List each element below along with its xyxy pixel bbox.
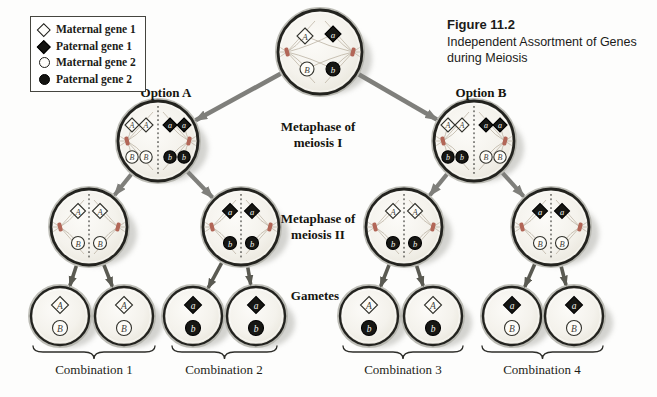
arrow-m1b-to-m2_4 bbox=[503, 173, 524, 196]
svg-text:b: b bbox=[460, 153, 464, 162]
maternal-gene-2-icon bbox=[39, 57, 50, 68]
legend-label: Paternal gene 1 bbox=[56, 39, 132, 55]
gene-b-circle: b bbox=[456, 151, 468, 163]
legend-label: Maternal gene 1 bbox=[56, 22, 136, 38]
svg-text:A: A bbox=[143, 121, 149, 130]
brace-combination-2 bbox=[172, 346, 277, 359]
svg-text:a: a bbox=[484, 121, 488, 130]
combination-2-label: Combination 2 bbox=[185, 362, 263, 378]
svg-text:A: A bbox=[365, 301, 372, 311]
metaphase2-cell-4: aaBB bbox=[511, 187, 599, 267]
combination-3-label: Combination 3 bbox=[364, 362, 442, 378]
svg-text:B: B bbox=[130, 153, 135, 162]
gene-B-circle: B bbox=[94, 237, 107, 250]
legend-item-paternal-gene-1: Paternal gene 1 bbox=[37, 39, 136, 55]
combination-4-label: Combination 4 bbox=[503, 362, 581, 378]
svg-text:a: a bbox=[498, 121, 502, 130]
legend-label: Maternal gene 2 bbox=[56, 55, 136, 71]
arrow-m2_2-to-g3 bbox=[208, 263, 221, 288]
brace-combination-3 bbox=[343, 346, 463, 359]
svg-text:a: a bbox=[250, 207, 254, 217]
legend-box: Maternal gene 1 Paternal gene 1 Maternal… bbox=[30, 16, 146, 92]
gamete-6: Ab bbox=[402, 285, 472, 348]
svg-text:a: a bbox=[331, 30, 336, 40]
gene-B-circle: B bbox=[140, 151, 152, 163]
svg-text:a: a bbox=[572, 301, 577, 311]
arrow-parent-to-m1b bbox=[359, 75, 437, 120]
figure-title: Independent Assortment of Genes during M… bbox=[447, 34, 647, 66]
svg-text:B: B bbox=[571, 324, 577, 334]
gene-b-circle: b bbox=[164, 151, 176, 163]
combination-1-label: Combination 1 bbox=[55, 362, 133, 378]
svg-text:B: B bbox=[57, 324, 63, 334]
metaphase-meiosis-2-label: Metaphase of meiosis II bbox=[281, 211, 356, 244]
svg-text:A: A bbox=[445, 121, 451, 130]
arrow-m2_1-to-g1 bbox=[70, 266, 76, 286]
svg-text:a: a bbox=[191, 301, 196, 311]
gametes-label: Gametes bbox=[291, 288, 339, 304]
gene-B-circle: B bbox=[567, 321, 582, 336]
meiosis-diagram: AaBbAAaaBBbbAAaabbBBAABBaabbAAbbaaBBABAB… bbox=[0, 0, 657, 397]
svg-text:b: b bbox=[254, 324, 259, 334]
svg-text:B: B bbox=[121, 324, 127, 334]
parent-cell: AaBb bbox=[276, 8, 372, 96]
svg-text:b: b bbox=[182, 153, 186, 162]
svg-text:b: b bbox=[446, 153, 450, 162]
arrow-m2_4-to-g8 bbox=[561, 267, 566, 285]
svg-text:a: a bbox=[560, 207, 564, 217]
svg-text:A: A bbox=[74, 207, 81, 217]
gene-B-circle: B bbox=[480, 151, 492, 163]
svg-text:b: b bbox=[250, 239, 254, 249]
gene-b-circle: b bbox=[442, 151, 454, 163]
svg-text:b: b bbox=[168, 153, 172, 162]
svg-text:A: A bbox=[56, 301, 63, 311]
arrow-m2_4-to-g7 bbox=[525, 265, 535, 287]
svg-text:B: B bbox=[509, 324, 515, 334]
svg-text:b: b bbox=[191, 324, 196, 334]
gamete-5: Ab bbox=[338, 285, 408, 348]
gene-B-circle: B bbox=[53, 321, 68, 336]
svg-text:A: A bbox=[459, 121, 465, 130]
svg-text:A: A bbox=[301, 32, 308, 42]
svg-text:a: a bbox=[228, 207, 232, 217]
svg-text:B: B bbox=[537, 239, 542, 249]
gene-b-circle: b bbox=[426, 321, 441, 336]
arrow-m1a-to-m2_2 bbox=[188, 172, 213, 198]
paternal-gene-1-icon bbox=[37, 40, 50, 53]
legend-label: Paternal gene 2 bbox=[56, 72, 132, 88]
gene-b-circle: b bbox=[224, 237, 237, 250]
brace-combination-1 bbox=[33, 346, 155, 359]
metaphase2-cell-2: aabb bbox=[201, 187, 289, 267]
svg-text:A: A bbox=[96, 207, 103, 217]
gene-b-circle: b bbox=[186, 321, 201, 336]
gene-b-circle: b bbox=[387, 237, 400, 250]
svg-text:B: B bbox=[559, 239, 564, 249]
svg-text:a: a bbox=[182, 121, 186, 130]
option-b-label: Option B bbox=[456, 85, 507, 101]
svg-text:B: B bbox=[498, 153, 503, 162]
arrow-m2_3-to-g6 bbox=[417, 266, 423, 286]
figure-caption: Figure 11.2 Independent Assortment of Ge… bbox=[447, 17, 647, 66]
gamete-2: AB bbox=[93, 285, 163, 348]
gamete-8: aB bbox=[543, 285, 613, 348]
gene-b-circle: b bbox=[246, 237, 259, 250]
svg-text:b: b bbox=[228, 239, 232, 249]
gene-B-circle: B bbox=[505, 321, 520, 336]
legend-item-maternal-gene-1: Maternal gene 1 bbox=[37, 22, 136, 38]
metaphase1-option-a-cell: AAaaBBbb bbox=[116, 99, 208, 183]
gamete-4: ab bbox=[225, 285, 295, 348]
legend-item-maternal-gene-2: Maternal gene 2 bbox=[37, 55, 136, 71]
gene-B-circle: B bbox=[72, 237, 85, 250]
svg-text:A: A bbox=[120, 301, 127, 311]
svg-text:a: a bbox=[254, 301, 259, 311]
svg-text:A: A bbox=[411, 207, 418, 217]
svg-text:A: A bbox=[389, 207, 396, 217]
gamete-3: ab bbox=[162, 285, 232, 348]
svg-text:B: B bbox=[484, 153, 489, 162]
brace-combination-4 bbox=[482, 346, 603, 359]
combination-braces bbox=[33, 346, 603, 359]
arrow-parent-to-m1a bbox=[196, 74, 281, 121]
metaphase1-option-b-cell: AAaabbBB bbox=[432, 99, 524, 183]
gene-B-circle: B bbox=[534, 237, 547, 250]
legend-item-paternal-gene-2: Paternal gene 2 bbox=[37, 72, 136, 88]
